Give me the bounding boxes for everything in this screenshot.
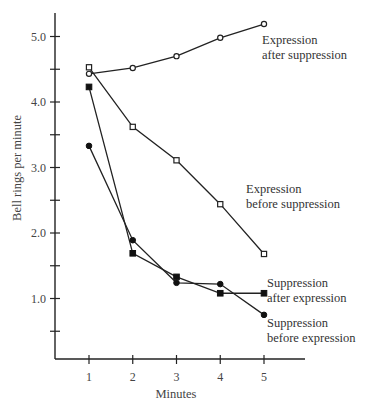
- series-line: [89, 87, 264, 293]
- x-axis-title: Minutes: [156, 387, 197, 401]
- filled-square-marker: [86, 84, 92, 90]
- y-tick-label: 5.0: [31, 30, 46, 44]
- series-suppression-after-expression: [86, 84, 267, 296]
- series-label-line: Expression: [246, 182, 302, 196]
- series-line: [89, 146, 264, 315]
- filled-circle-marker: [86, 143, 92, 149]
- series-label-line: Expression: [262, 33, 318, 47]
- open-circle-marker: [174, 54, 179, 59]
- filled-square-marker: [217, 290, 223, 296]
- y-axis-title: Bell rings per minute: [10, 115, 24, 221]
- series-label-line: Suppression: [267, 316, 329, 330]
- open-circle-marker: [218, 35, 223, 40]
- filled-square-marker: [130, 251, 136, 257]
- series-label-line: before suppression: [246, 197, 341, 211]
- y-tick-label: 3.0: [31, 161, 46, 175]
- series-expression-before-suppression: [86, 65, 266, 257]
- series-label-line: after suppression: [262, 48, 348, 62]
- series-label-line: after expression: [267, 291, 347, 305]
- filled-square-marker: [261, 290, 267, 296]
- filled-circle-marker: [261, 312, 267, 318]
- x-tick-label: 4: [217, 370, 223, 384]
- open-circle-marker: [86, 71, 91, 76]
- y-tick-label: 4.0: [31, 95, 46, 109]
- series-label-line: before expression: [267, 331, 356, 345]
- x-tick-label: 1: [86, 370, 92, 384]
- series-group: [86, 21, 267, 317]
- open-circle-marker: [261, 21, 266, 26]
- open-square-marker: [218, 202, 223, 207]
- filled-circle-marker: [217, 281, 223, 287]
- filled-circle-marker: [174, 280, 180, 286]
- x-tick-label: 5: [261, 370, 267, 384]
- open-square-marker: [261, 251, 266, 256]
- series-suppression-before-expression: [86, 143, 267, 318]
- series-expression-after-suppression: [86, 21, 266, 76]
- filled-square-marker: [174, 274, 180, 280]
- open-circle-marker: [130, 65, 135, 70]
- line-chart: 1.02.03.04.05.0 12345 Minutes Bell rings…: [0, 0, 370, 406]
- x-tick-label: 2: [130, 370, 136, 384]
- series-label-line: Suppression: [267, 276, 329, 290]
- y-tick-label: 2.0: [31, 226, 46, 240]
- filled-circle-marker: [130, 237, 136, 243]
- series-line: [89, 24, 264, 74]
- open-square-marker: [130, 124, 135, 129]
- open-square-marker: [86, 65, 91, 70]
- x-tick-label: 3: [174, 370, 180, 384]
- y-tick-label: 1.0: [31, 292, 46, 306]
- open-square-marker: [174, 158, 179, 163]
- series-labels: Expressionafter suppressionExpressionbef…: [246, 33, 356, 345]
